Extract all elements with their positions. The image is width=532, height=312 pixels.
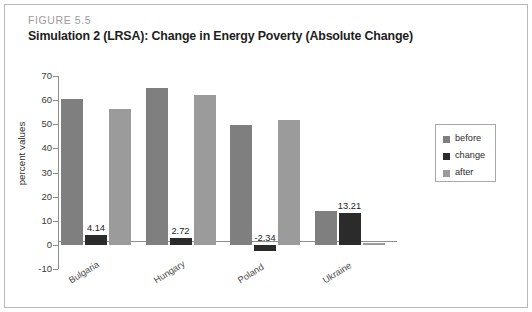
bar-poland-after <box>278 120 300 245</box>
figure-page: FIGURE 5.5 Simulation 2 (LRSA): Change i… <box>0 0 532 312</box>
legend-label: before <box>455 134 481 143</box>
y-axis-tick <box>53 245 58 246</box>
bar-hungary-after <box>194 95 216 245</box>
y-axis-tick-label: 70 <box>24 71 52 81</box>
y-axis-tick-label: 20 <box>24 192 52 202</box>
x-axis-label-poland: Poland <box>236 262 266 286</box>
x-axis-label-hungary: Hungary <box>152 259 187 286</box>
y-axis-tick-label: 50 <box>24 119 52 129</box>
legend-item-before: before <box>443 133 481 145</box>
bar-poland-before <box>230 125 252 245</box>
bar-hungary-change <box>170 238 192 245</box>
y-axis-tick <box>53 197 58 198</box>
legend-item-after: after <box>443 167 473 179</box>
bar-poland-change <box>254 245 276 251</box>
bar-ukraine-before <box>315 211 337 245</box>
bar-value-label: 4.14 <box>76 223 116 233</box>
bar-hungary-before <box>146 88 168 245</box>
y-axis-tick <box>53 124 58 125</box>
y-axis-tick <box>53 221 58 222</box>
legend-swatch-icon <box>443 136 450 143</box>
y-axis-tick-label: 40 <box>24 143 52 153</box>
x-axis-label-bulgaria: Bulgaria <box>67 259 101 285</box>
y-axis-tick-label: -10 <box>24 264 52 274</box>
y-axis-tick <box>53 269 58 270</box>
y-axis-tick-label: 30 <box>24 168 52 178</box>
x-axis-label-ukraine: Ukraine <box>321 260 353 285</box>
legend-swatch-icon <box>443 170 450 177</box>
legend-label: change <box>455 151 485 160</box>
legend-item-change: change <box>443 150 485 162</box>
chart-legend: beforechangeafter <box>435 124 496 182</box>
y-axis-tick <box>53 100 58 101</box>
y-axis-tick <box>53 76 58 77</box>
bar-value-label: 13.21 <box>330 201 370 211</box>
legend-swatch-icon <box>443 153 450 160</box>
y-axis-tick-label: 0 <box>24 240 52 250</box>
legend-label: after <box>455 168 473 177</box>
y-axis-tick <box>53 148 58 149</box>
bar-ukraine-after <box>363 243 385 245</box>
bar-value-label: -2.34 <box>245 233 285 243</box>
y-axis-tick-label: 60 <box>24 95 52 105</box>
bar-bulgaria-change <box>85 235 107 245</box>
bar-value-label: 2.72 <box>161 226 201 236</box>
y-axis-tick-label: 10 <box>24 216 52 226</box>
y-axis-tick <box>53 173 58 174</box>
bar-ukraine-change <box>339 213 361 245</box>
